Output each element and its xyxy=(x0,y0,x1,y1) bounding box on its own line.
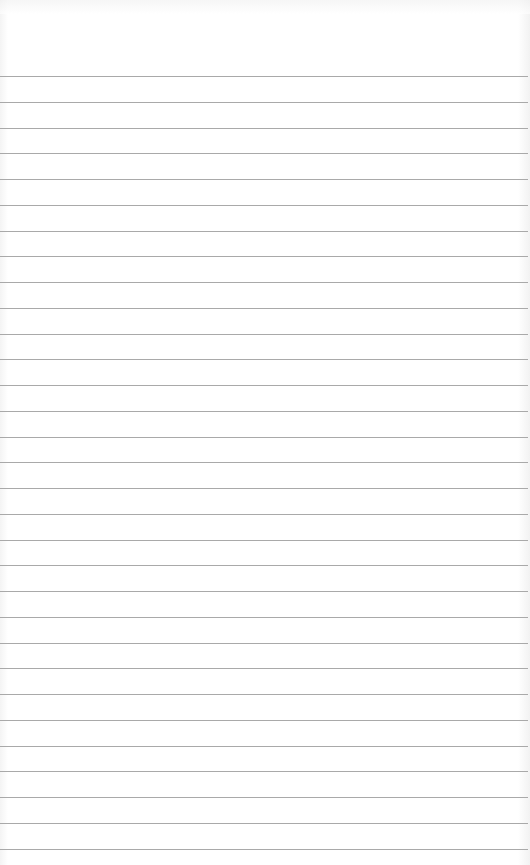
ruled-line xyxy=(0,282,528,283)
ruled-line xyxy=(0,591,528,592)
ruled-line xyxy=(0,179,528,180)
ruled-line xyxy=(0,643,528,644)
ruled-line xyxy=(0,256,528,257)
ruled-paper-page xyxy=(0,0,530,865)
ruled-line xyxy=(0,823,528,824)
ruled-line xyxy=(0,668,528,669)
ruled-line xyxy=(0,514,528,515)
ruled-line xyxy=(0,694,528,695)
ruled-line xyxy=(0,437,528,438)
ruled-line xyxy=(0,488,528,489)
ruled-line xyxy=(0,797,528,798)
ruled-line xyxy=(0,205,528,206)
ruled-line xyxy=(0,849,528,850)
ruled-line xyxy=(0,462,528,463)
ruled-line xyxy=(0,308,528,309)
ruled-line xyxy=(0,359,528,360)
ruled-line xyxy=(0,102,528,103)
ruled-line xyxy=(0,385,528,386)
ruled-line xyxy=(0,231,528,232)
ruled-line xyxy=(0,565,528,566)
ruled-line xyxy=(0,128,528,129)
ruled-line xyxy=(0,771,528,772)
top-edge-bleed-through xyxy=(0,0,530,14)
ruled-line xyxy=(0,617,528,618)
ruled-line xyxy=(0,334,528,335)
ruled-line xyxy=(0,153,528,154)
ruled-line xyxy=(0,746,528,747)
ruled-line xyxy=(0,411,528,412)
ruled-line xyxy=(0,76,528,77)
ruled-line xyxy=(0,720,528,721)
ruled-line xyxy=(0,540,528,541)
